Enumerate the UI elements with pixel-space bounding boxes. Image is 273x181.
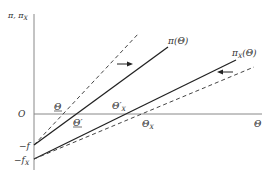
pix-line [34, 60, 236, 159]
pi-line [34, 47, 168, 145]
y-axis-label: π, πX [7, 11, 29, 21]
profit-diagram: π, πX O Θ −f −fX π(Θ) πX(Θ) Θ Θ′ Θ′X ΘX [0, 0, 273, 181]
theta-underbar-label: Θ [54, 102, 62, 112]
arrow-right-icon [117, 62, 133, 67]
pix-curve-label: πX(Θ) [231, 48, 257, 59]
theta-x-label: ΘX [142, 119, 154, 130]
pix-shifted-dashed-line [34, 67, 254, 159]
diagram-svg: π, πX O Θ −f −fX π(Θ) πX(Θ) Θ Θ′ Θ′X ΘX [0, 0, 273, 181]
pi-shifted-dashed-line [34, 33, 139, 145]
pi-curve-label: π(Θ) [167, 36, 189, 46]
x-axis-label: Θ [254, 119, 262, 129]
theta-x-prime-label: Θ′X [112, 101, 126, 112]
origin-label: O [18, 109, 26, 119]
theta-prime-underbar-label: Θ′ [73, 118, 82, 128]
intercept-f-label: −f [19, 141, 32, 151]
intercept-fx-label: −fX [14, 155, 30, 166]
arrow-left-icon [217, 70, 233, 75]
